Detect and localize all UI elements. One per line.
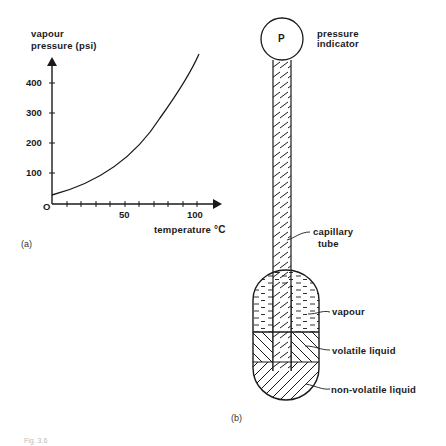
label-nonvolatile-liquid: non-volatile liquid	[331, 384, 416, 395]
pressure-thermometer	[253, 18, 330, 400]
sensing-bulb	[253, 270, 319, 400]
diagram-canvas	[0, 0, 446, 446]
label-volatile-liquid: volatile liquid	[332, 345, 396, 356]
label-pressure-indicator-2: indicator	[317, 38, 359, 49]
y-tick-400: 400	[26, 77, 42, 88]
y-tick-300: 300	[26, 107, 42, 118]
indicator-symbol: P	[278, 33, 285, 44]
y-axis-arrow-icon	[47, 57, 57, 66]
vapour-pressure-chart	[47, 54, 222, 209]
x-tick-100: 100	[187, 209, 203, 220]
panel-a-label: (a)	[21, 239, 32, 249]
y-axis-label-line1: vapour	[31, 28, 64, 39]
origin-label: O	[43, 201, 50, 212]
x-axis-unit: °C	[214, 224, 226, 235]
figure-caption: Fig. 3.6	[24, 437, 47, 444]
y-tick-200: 200	[26, 137, 42, 148]
y-tick-100: 100	[26, 167, 42, 178]
x-axis-label-text: temperature	[154, 224, 211, 235]
panel-b-label: (b)	[231, 413, 242, 423]
label-vapour: vapour	[332, 306, 365, 317]
x-axis-arrow-icon	[213, 199, 222, 209]
vapour-pressure-curve	[52, 54, 199, 195]
x-axis-label: temperature °C	[154, 224, 226, 235]
label-capillary-2: tube	[318, 238, 339, 249]
label-capillary-1: capillary	[313, 226, 353, 237]
x-tick-50: 50	[119, 209, 130, 220]
y-axis-label-line2: pressure (psi)	[31, 40, 97, 51]
